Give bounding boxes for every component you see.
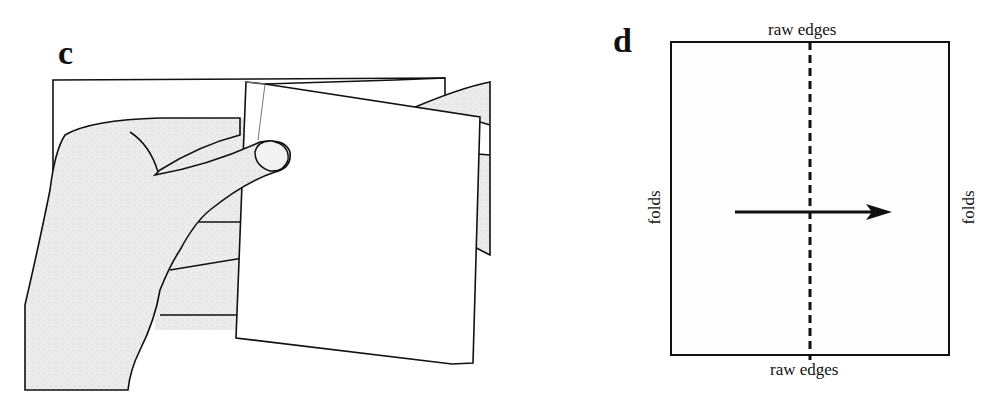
label-bottom-raw-edges: raw edges xyxy=(770,361,838,378)
label-top-raw-edges: raw edges xyxy=(768,21,836,38)
label-left-folds: folds xyxy=(646,191,663,225)
panel-d-diagram xyxy=(0,0,991,407)
label-right-folds: folds xyxy=(960,191,977,225)
